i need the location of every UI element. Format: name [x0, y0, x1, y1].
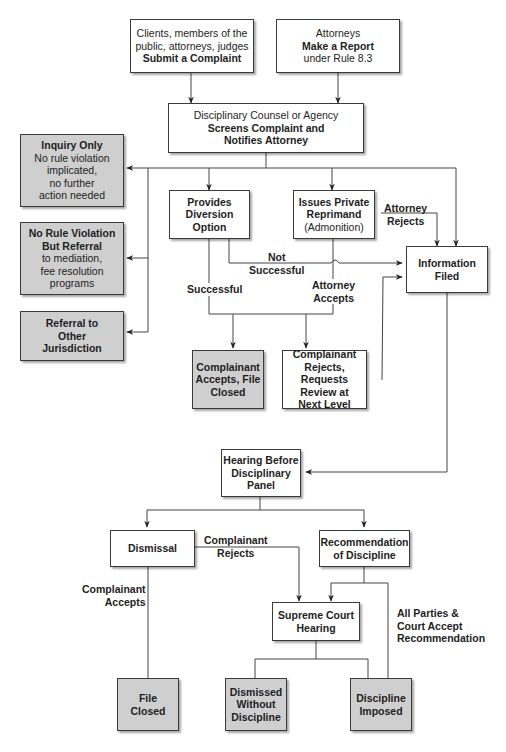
inquiry-only-line4: no further [50, 177, 95, 190]
successful-l1: Successful [187, 283, 242, 296]
private-reprimand-node: Issues Private Reprimand (Admonition) [293, 190, 375, 239]
attorney-rejects-label: Attorney Rejects [384, 202, 427, 227]
reprimand-line3: (Admonition) [304, 221, 364, 234]
complainant-accepts-bold2: Accepts, File [196, 373, 261, 386]
complainant-accepts-l2: Accepts [82, 596, 146, 609]
complainant-accepts-bold3: Closed [210, 386, 245, 399]
hearing-bold3: Panel [247, 479, 275, 492]
attorney-accepts-l2: Accepts [312, 292, 355, 305]
inquiry-only-line5: action needed [39, 189, 105, 202]
discipline-imposed-bold1: Discipline [356, 692, 406, 705]
not-successful-label: Not Successful [249, 251, 304, 276]
complainant-rejects-bold3: Review at [300, 386, 348, 399]
recommendation-bold1: Recommendation [320, 536, 408, 549]
complainant-rejects-l2: Rejects [204, 547, 268, 560]
dismissed-bold3: Discipline [231, 711, 281, 724]
inquiry-only-bold: Inquiry Only [41, 139, 102, 152]
submit-complaint-node: Clients, members of the public, attorney… [130, 19, 254, 73]
attorney-rejects-l1: Attorney [384, 202, 427, 215]
screens-bold1: Screens Complaint and [208, 122, 325, 135]
supreme-court-bold1: Supreme Court [278, 609, 354, 622]
dismissal-node: Dismissal [110, 530, 195, 567]
no-violation-bold1: No Rule Violation [29, 227, 116, 240]
inquiry-only-line3: implicated, [47, 164, 97, 177]
supreme-court-hearing-node: Supreme Court Hearing [272, 602, 360, 641]
complainant-rejects-bold1: Complainant [293, 348, 357, 361]
complainant-accepts-closed-node: Complainant Accepts, File Closed [192, 350, 264, 409]
complainant-accepts-label: Complainant Accepts [82, 583, 146, 608]
not-successful-l2: Successful [249, 264, 304, 277]
make-report-line3: under Rule 8.3 [304, 52, 373, 65]
information-filed-bold2: Filed [435, 270, 460, 283]
hearing-bold1: Hearing Before [223, 454, 298, 467]
discipline-imposed-node: Discipline Imposed [350, 678, 412, 731]
no-violation-referral-node: No Rule Violation But Referral to mediat… [20, 222, 124, 295]
diversion-option-node: Provides Diversion Option [169, 190, 250, 239]
referral-other-jurisdiction-node: Referral to Other Jurisdiction [20, 311, 124, 361]
no-violation-line3: to mediation, [42, 252, 102, 265]
inquiry-only-line2: No rule violation [34, 152, 109, 165]
submit-complaint-line1: Clients, members of the [137, 27, 248, 40]
screens-complaint-node: Disciplinary Counsel or Agency Screens C… [168, 103, 364, 153]
reprimand-bold1: Issues Private [299, 196, 370, 209]
dismissal-bold: Dismissal [128, 542, 177, 555]
dismissed-without-discipline-node: Dismissed Without Discipline [225, 678, 287, 731]
diversion-bold1: Provides [187, 196, 231, 209]
no-violation-bold2: But Referral [42, 240, 102, 253]
all-parties-l3: Recommendation [397, 632, 485, 645]
successful-label: Successful [187, 283, 242, 296]
no-violation-line4: fee resolution [40, 265, 103, 278]
all-parties-label: All Parties & Court Accept Recommendatio… [397, 607, 485, 645]
information-filed-node: Information Filed [406, 246, 488, 293]
referral-other-bold1: Referral to [46, 317, 99, 330]
make-report-line1: Attorneys [316, 27, 360, 40]
complainant-rejects-l1: Complainant [204, 534, 268, 547]
attorney-accepts-l1: Attorney [312, 279, 355, 292]
hearing-panel-node: Hearing Before Disciplinary Panel [221, 449, 301, 497]
attorney-accepts-label: Attorney Accepts [312, 279, 355, 304]
complainant-accepts-bold1: Complainant [196, 361, 260, 374]
make-report-bold: Make a Report [302, 40, 374, 53]
file-closed-bold2: Closed [130, 705, 165, 718]
complainant-rejects-bold2: Rejects, Requests [283, 361, 366, 386]
not-successful-l1: Not [249, 251, 304, 264]
supreme-court-bold2: Hearing [296, 622, 335, 635]
complainant-rejects-bold4: Next Level [298, 398, 351, 411]
hearing-bold2: Disciplinary [231, 467, 291, 480]
submit-complaint-bold: Submit a Complaint [143, 52, 242, 65]
complainant-rejects-label: Complainant Rejects [204, 534, 268, 559]
no-violation-line5: programs [50, 277, 94, 290]
recommendation-node: Recommendation of Discipline [319, 530, 410, 567]
file-closed-node: File Closed [117, 678, 179, 731]
referral-other-bold3: Jurisdiction [42, 342, 102, 355]
recommendation-bold2: of Discipline [333, 549, 395, 562]
file-closed-bold1: File [139, 692, 157, 705]
all-parties-l2: Court Accept [397, 620, 485, 633]
discipline-imposed-bold2: Imposed [359, 705, 402, 718]
attorney-rejects-l2: Rejects [384, 215, 427, 228]
diversion-bold2: Diversion [186, 208, 234, 221]
reprimand-bold2: Reprimand [307, 208, 362, 221]
complainant-accepts-l1: Complainant [82, 583, 146, 596]
dismissed-bold1: Dismissed [230, 686, 283, 699]
diversion-bold3: Option [193, 221, 227, 234]
information-filed-bold1: Information [418, 257, 476, 270]
screens-line1: Disciplinary Counsel or Agency [194, 109, 339, 122]
screens-bold2: Notifies Attorney [224, 134, 308, 147]
inquiry-only-node: Inquiry Only No rule violation implicate… [20, 134, 124, 207]
all-parties-l1: All Parties & [397, 607, 485, 620]
make-report-node: Attorneys Make a Report under Rule 8.3 [276, 19, 400, 73]
referral-other-bold2: Other [58, 330, 86, 343]
submit-complaint-line2: public, attorneys, judges [135, 40, 248, 53]
dismissed-bold2: Without [237, 698, 276, 711]
complainant-rejects-review-node: Complainant Rejects, Requests Review at … [282, 350, 367, 409]
